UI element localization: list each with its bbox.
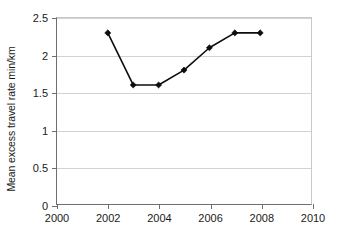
- x-axis-tick-label: 2004: [147, 212, 171, 224]
- x-axis-tick: [108, 204, 109, 209]
- data-point-marker: [130, 82, 136, 88]
- series-layer: [57, 18, 311, 204]
- y-axis-tick-label: 1.5: [33, 87, 48, 99]
- x-axis-tick: [57, 204, 58, 209]
- line-chart: Mean excess travel rate min/km 00.511.52…: [0, 0, 337, 238]
- data-point-marker: [257, 30, 263, 36]
- x-axis-tick-label: 2006: [198, 212, 222, 224]
- y-axis-tick-label: 2.5: [33, 12, 48, 24]
- series-line-mean-excess-travel-rate: [108, 33, 260, 85]
- x-axis-tick: [159, 204, 160, 209]
- x-axis-tick: [313, 204, 314, 209]
- data-point-marker: [105, 30, 111, 36]
- x-axis-tick: [211, 204, 212, 209]
- y-axis-tick-label: 0: [42, 200, 48, 212]
- x-axis-tick-label: 2010: [301, 212, 325, 224]
- x-axis-tick-label: 2002: [96, 212, 120, 224]
- x-axis-tick: [262, 204, 263, 209]
- x-axis-tick-label: 2000: [45, 212, 69, 224]
- series-markers: [105, 30, 264, 88]
- x-axis-tick-label: 2008: [250, 212, 274, 224]
- y-axis-title: Mean excess travel rate min/km: [0, 0, 22, 238]
- y-axis-tick-label: 2: [42, 50, 48, 62]
- plot-area: 00.511.522.5 200020022004200620082010: [56, 17, 312, 205]
- y-axis-tick-label: 1: [42, 125, 48, 137]
- y-axis-tick-label: 0.5: [33, 162, 48, 174]
